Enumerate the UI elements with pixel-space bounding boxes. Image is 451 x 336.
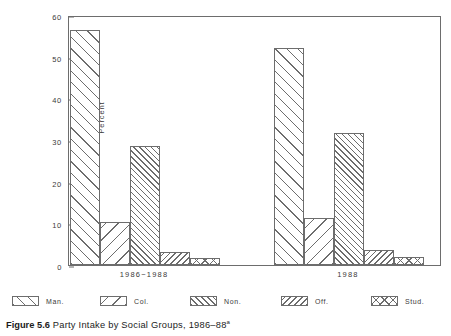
legend-swatch-col [100,296,127,306]
legend-swatch-non [190,296,217,306]
legend-label: Man. [46,298,64,305]
bar-man-group2 [274,48,304,265]
y-tick-label: 30 [52,138,69,147]
caption-superscript: a [227,319,230,325]
figure-caption: Figure 5.6 Party Intake by Social Groups… [6,319,446,330]
y-tick-mark [69,267,74,268]
bar-off-group1 [160,252,190,265]
figure-container: Percent 0102030405060 1986−19881988 Man.… [0,0,451,336]
x-tick-label: 1986−1988 [120,270,169,279]
y-tick-label: 60 [52,13,69,22]
bar-col-group2 [304,218,334,266]
legend: Man.Col.Non.Off.Stud. [0,294,451,314]
bar-stud-group2 [394,257,424,265]
legend-item-col: Col. [100,294,149,308]
legend-item-non: Non. [190,294,241,308]
legend-swatch-man [12,296,39,306]
bar-off-group2 [364,250,394,265]
bar-col-group1 [100,222,130,265]
legend-label: Non. [224,298,241,305]
y-tick-label: 0 [57,263,69,272]
legend-swatch-off [281,296,308,306]
x-tick-label: 1988 [337,270,359,279]
chart-area: Percent 0102030405060 1986−19881988 [0,0,451,290]
plot-frame: Percent 0102030405060 [68,16,441,266]
y-tick-label: 40 [52,96,69,105]
caption-label: Figure 5.6 [6,320,50,330]
bar-man-group1 [70,30,100,265]
legend-label: Off. [315,298,329,305]
bar-non-group1 [130,146,160,265]
y-tick-label: 50 [52,54,69,63]
y-tick-mark [69,17,74,18]
legend-item-stud: Stud. [371,294,424,308]
bar-non-group2 [334,133,364,266]
legend-label: Stud. [405,298,424,305]
bar-stud-group1 [190,258,220,265]
legend-item-off: Off. [281,294,329,308]
caption-text: Party Intake by Social Groups, 1986–88 [53,320,227,330]
y-tick-label: 20 [52,179,69,188]
legend-label: Col. [134,298,149,305]
y-tick-label: 10 [52,221,69,230]
legend-item-man: Man. [12,294,64,308]
legend-swatch-stud [371,296,398,306]
